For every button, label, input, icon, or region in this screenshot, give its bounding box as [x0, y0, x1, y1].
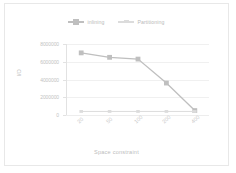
legend-entry-inlining[interactable]: inlining [68, 18, 104, 26]
y-axis-tick-label: 6000000 [13, 59, 59, 65]
chart-legend: inlining Partitioning [5, 18, 228, 26]
y-axis-tick-label: 4000000 [13, 77, 59, 83]
data-point-marker[interactable] [193, 110, 197, 113]
data-point-marker[interactable] [79, 50, 84, 55]
legend-swatch-partitioning [118, 18, 134, 26]
series-line-inlining [81, 53, 195, 111]
data-point-marker[interactable] [136, 57, 141, 62]
series-svg [67, 44, 209, 115]
data-point-marker[interactable] [79, 110, 83, 113]
legend-square-marker-icon [73, 19, 79, 25]
legend-dash-marker-icon [124, 20, 129, 22]
data-point-marker[interactable] [164, 81, 169, 86]
legend-swatch-inlining [68, 18, 84, 26]
x-axis-tick-label: 50 [105, 116, 113, 124]
x-axis-title: Space constraint [5, 149, 228, 155]
data-point-marker[interactable] [165, 110, 169, 113]
plot-area [67, 44, 209, 115]
x-axis-tick-label: 20 [76, 116, 84, 124]
chart-container: inlining Partitioning I/O 02000000400000… [4, 3, 229, 166]
legend-entry-partitioning[interactable]: Partitioning [118, 18, 164, 26]
data-point-marker[interactable] [108, 110, 112, 113]
y-axis-tick-label: 2000000 [13, 94, 59, 100]
data-point-marker[interactable] [107, 55, 112, 60]
legend-label-partitioning: Partitioning [137, 19, 164, 25]
data-point-marker[interactable] [136, 110, 140, 113]
y-axis-tick-label: 0 [13, 112, 59, 118]
y-axis-tick-label: 8000000 [13, 41, 59, 47]
legend-label-inlining: inlining [87, 19, 104, 25]
